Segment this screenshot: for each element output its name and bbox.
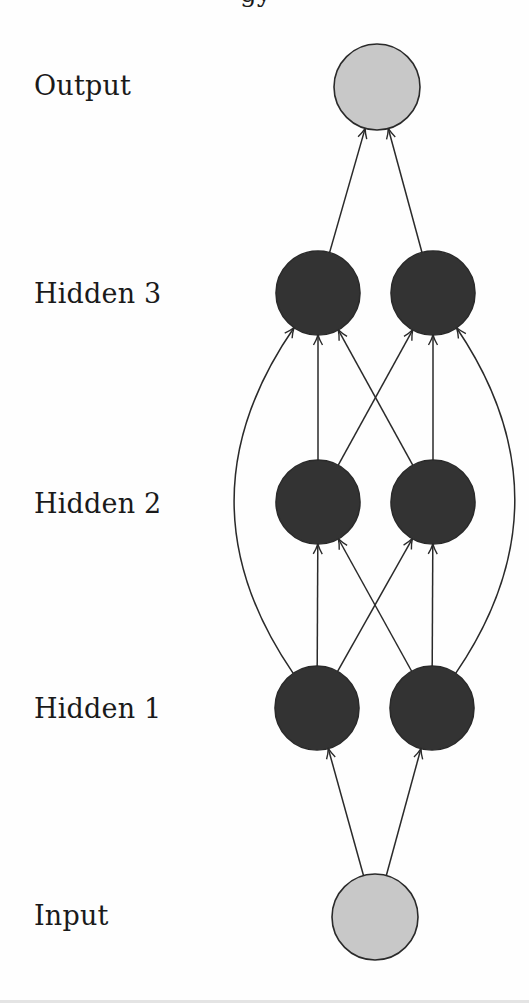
node-h3b — [391, 251, 475, 335]
node-h2a — [276, 460, 360, 544]
edge-arrow-in-to-h1b — [386, 749, 421, 876]
layer-label-hidden3: Hidden 3 — [34, 280, 161, 307]
edge-arrow-h3a-to-out — [330, 128, 366, 252]
edge-arrow-h3b-to-out — [388, 128, 422, 252]
node-out — [334, 44, 420, 130]
layer-label-hidden2: Hidden 2 — [34, 490, 161, 517]
layer-label-hidden1: Hidden 1 — [34, 695, 161, 722]
diagram-canvas: gy OutputHidden 3Hidden 2Hidden 1Input — [0, 0, 529, 1003]
layer-label-output: Output — [34, 72, 131, 99]
edge-arrow-h1a-to-h2a — [317, 544, 318, 666]
nodes-group — [275, 44, 475, 960]
edge-arrow-in-to-h1a — [328, 748, 363, 875]
node-h1a — [275, 666, 359, 750]
edge-arrow-h1b-to-h2b — [432, 544, 433, 666]
layer-label-input: Input — [34, 902, 109, 929]
node-in — [332, 874, 418, 960]
node-h1b — [390, 666, 474, 750]
node-h2b — [391, 460, 475, 544]
node-h3a — [276, 251, 360, 335]
